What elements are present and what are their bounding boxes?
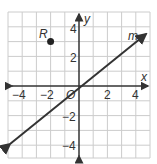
point-r-label: R (39, 27, 48, 41)
y-tick-4: 4 (70, 22, 77, 36)
line-m-label: m (128, 29, 138, 43)
y-tick-2: 2 (70, 51, 77, 65)
x-tick-neg4: −4 (12, 88, 26, 102)
line-m (10, 34, 146, 144)
y-tick-neg2: −2 (62, 110, 76, 124)
point-r (47, 38, 54, 45)
origin-label: O (66, 88, 75, 102)
x-axis-label: x (140, 70, 148, 84)
x-tick-2: 2 (104, 88, 111, 102)
y-tick-neg4: −4 (62, 139, 76, 153)
x-tick-4: 4 (132, 88, 139, 102)
y-axis-label: y (83, 12, 91, 26)
x-tick-neg2: −2 (40, 88, 54, 102)
coordinate-plane: R m x y O −4 −2 2 4 4 2 −2 −4 (0, 0, 157, 164)
